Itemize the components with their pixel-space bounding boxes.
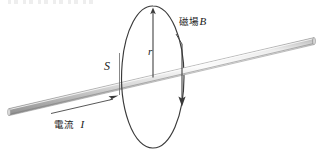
physics-figure: 磁場 B 電流 I S r	[0, 0, 323, 157]
label-magnetic-field-symbol: B	[200, 16, 207, 27]
label-radius-symbol: r	[148, 46, 152, 57]
label-current-symbol: I	[81, 119, 85, 130]
label-magnetic-field-text: 磁場	[179, 17, 200, 27]
radius-arrow-icon	[150, 8, 156, 78]
label-current-text: 電流	[54, 120, 75, 130]
label-area-symbol: S	[104, 60, 110, 72]
label-magnetic-field: 磁場 B	[179, 16, 206, 27]
label-current: 電流 I	[54, 119, 84, 130]
figure-canvas	[0, 0, 323, 157]
current-carrying-rod	[8, 38, 316, 116]
